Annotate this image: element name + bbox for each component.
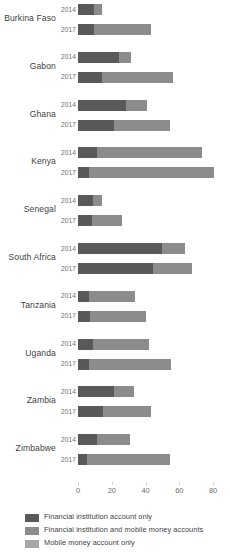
bar-segment — [119, 52, 132, 63]
bar-segment — [78, 339, 93, 350]
stacked-bar — [78, 195, 102, 206]
year-label: 2014 — [57, 149, 76, 156]
bar-segment — [90, 311, 146, 322]
bar-row: 2017 — [0, 72, 230, 83]
bar-segment — [78, 359, 89, 370]
country-group: Zimbabwe20142017 — [0, 434, 230, 465]
stacked-bar — [78, 291, 135, 302]
legend-item: Financial institution account only — [25, 512, 230, 525]
bar-row: 2017 — [0, 263, 230, 274]
legend-swatch — [25, 514, 39, 522]
bar-segment — [89, 167, 214, 178]
country-group: Uganda20142017 — [0, 339, 230, 370]
bar-row: 2014 — [0, 434, 230, 445]
chart-legend: Financial institution account onlyFinanc… — [25, 512, 230, 551]
axis-tick — [112, 482, 113, 485]
year-label: 2017 — [57, 121, 76, 128]
stacked-bar — [78, 215, 122, 226]
year-label: 2017 — [57, 456, 76, 463]
bar-segment — [103, 406, 151, 417]
country-group: Tanzania20142017 — [0, 291, 230, 322]
bar-row: 2017 — [0, 406, 230, 417]
bar-segment — [78, 243, 162, 254]
bar-segment — [114, 386, 133, 397]
stacked-bar — [78, 24, 151, 35]
bar-segment — [102, 72, 172, 83]
bar-segment — [92, 215, 122, 226]
bar-row: 2017 — [0, 167, 230, 178]
legend-label: Financial institution account only — [44, 512, 152, 521]
bar-segment — [78, 195, 93, 206]
year-label: 2017 — [57, 169, 76, 176]
bar-segment — [94, 24, 151, 35]
stacked-bar — [78, 359, 171, 370]
year-label: 2014 — [57, 388, 76, 395]
legend-swatch — [25, 527, 39, 535]
legend-label: Mobile money account only — [44, 538, 135, 547]
stacked-bar — [78, 386, 134, 397]
country-group: Ghana20142017 — [0, 100, 230, 131]
year-label: 2014 — [57, 53, 76, 60]
bar-segment — [78, 263, 153, 274]
bar-segment — [87, 454, 170, 465]
axis-tick-label: 40 — [141, 486, 149, 495]
stacked-bar — [78, 263, 192, 274]
bar-segment — [78, 386, 114, 397]
stacked-bar — [78, 311, 146, 322]
bar-row: 2014 — [0, 243, 230, 254]
bar-segment — [78, 454, 87, 465]
bar-row: 2014 — [0, 386, 230, 397]
bar-segment — [93, 339, 149, 350]
stacked-bar — [78, 454, 170, 465]
bar-segment — [78, 215, 92, 226]
bar-segment — [89, 291, 135, 302]
bar-segment — [78, 52, 119, 63]
stacked-bar — [78, 147, 202, 158]
bar-segment — [78, 167, 89, 178]
year-label: 2014 — [57, 340, 76, 347]
stacked-bar — [78, 52, 131, 63]
bar-row: 2014 — [0, 195, 230, 206]
axis-tick-label: 0 — [76, 486, 80, 495]
stacked-bar — [78, 406, 151, 417]
bar-row: 2014 — [0, 147, 230, 158]
bar-segment — [78, 120, 114, 131]
axis-tick — [146, 482, 147, 485]
stacked-bar-chart: Burkina Faso20142017Gabon20142017Ghana20… — [0, 0, 230, 555]
country-group: Kenya20142017 — [0, 147, 230, 178]
year-label: 2014 — [57, 245, 76, 252]
country-group: Gabon20142017 — [0, 52, 230, 83]
legend-swatch — [25, 540, 39, 548]
year-label: 2017 — [57, 312, 76, 319]
axis-tick-label: 20 — [108, 486, 116, 495]
bar-row: 2014 — [0, 52, 230, 63]
axis-tick-label: 60 — [175, 486, 183, 495]
year-label: 2017 — [57, 26, 76, 33]
bar-segment — [114, 120, 170, 131]
bar-row: 2017 — [0, 120, 230, 131]
bar-segment — [78, 406, 103, 417]
bar-segment — [78, 100, 126, 111]
bar-segment — [97, 147, 202, 158]
stacked-bar — [78, 167, 214, 178]
year-label: 2014 — [57, 436, 76, 443]
year-label: 2017 — [57, 217, 76, 224]
year-label: 2017 — [57, 265, 76, 272]
year-label: 2017 — [57, 73, 76, 80]
bar-row: 2014 — [0, 4, 230, 15]
country-group: South Africa20142017 — [0, 243, 230, 274]
bar-segment — [78, 434, 97, 445]
stacked-bar — [78, 72, 173, 83]
bar-segment — [78, 147, 97, 158]
bar-row: 2017 — [0, 359, 230, 370]
axis-tick-label: 80 — [209, 486, 217, 495]
axis-tick — [213, 482, 214, 485]
year-label: 2014 — [57, 101, 76, 108]
bar-row: 2014 — [0, 291, 230, 302]
bar-segment — [78, 291, 89, 302]
bar-segment — [153, 263, 192, 274]
bar-segment — [97, 434, 131, 445]
bar-row: 2017 — [0, 311, 230, 322]
stacked-bar — [78, 4, 102, 15]
bar-segment — [78, 24, 94, 35]
